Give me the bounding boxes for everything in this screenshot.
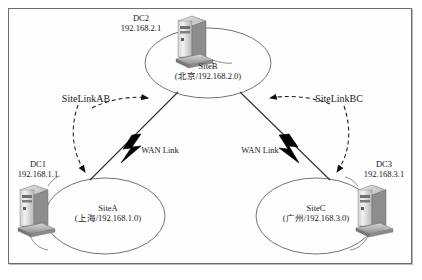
- wan-link-label-bc: WAN Link: [232, 146, 288, 156]
- dc1-ip: 192.168.1.1: [0, 170, 76, 180]
- site-link-label-bc: SiteLinkBC: [300, 93, 378, 104]
- dc3-ip: 192.168.3.1: [346, 170, 422, 180]
- network-diagram-canvas: DC2 192.168.2.1 SiteB (北京/192.168.2.0) D…: [0, 0, 422, 280]
- diagram-svg: [0, 0, 422, 280]
- site-label-siteA: SiteA (上海/192.168.1.0): [52, 204, 164, 223]
- site-link-label-ab: SiteLinkAB: [48, 93, 124, 104]
- site-label-siteB: SiteB (北京/192.168.2.0): [152, 62, 264, 81]
- siteB-subnet: (北京/192.168.2.0): [152, 72, 264, 82]
- siteA-subnet: (上海/192.168.1.0): [52, 214, 164, 224]
- siteC-subnet: (广州/192.168.3.0): [260, 214, 372, 224]
- dc-label-dc1: DC1 192.168.1.1: [0, 160, 76, 179]
- dc-label-dc3: DC3 192.168.3.1: [346, 160, 422, 179]
- wan-link-label-ab: WAN Link: [132, 146, 188, 156]
- dc-label-dc2: DC2 192.168.2.1: [106, 14, 176, 33]
- dc2-ip: 192.168.2.1: [106, 24, 176, 34]
- site-label-siteC: SiteC (广州/192.168.3.0): [260, 204, 372, 223]
